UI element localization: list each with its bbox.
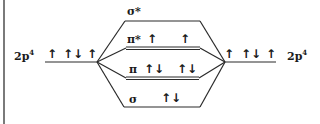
orbital-sigma-star: σ* — [125, 5, 200, 21]
orbital-label: π* — [127, 33, 141, 46]
orbital-label: π — [129, 63, 137, 76]
left-atom-level: 2p4 ↑ ↑↓ ↑ — [14, 47, 97, 63]
electron: ↑↓ — [144, 62, 164, 76]
right-electron-1: ↑ — [224, 47, 234, 61]
electron: ↑↓ — [177, 62, 197, 76]
left-electron-3: ↑ — [87, 47, 97, 61]
right-atom-level: ↑ ↑↓ ↑ 2p4 — [224, 47, 307, 63]
mo-diagram: 2p4 ↑ ↑↓ ↑ ↑ ↑↓ ↑ 2p4 σ* π* ↑ ↑ — [0, 0, 320, 124]
orbital-pi: π ↑↓ ↑↓ — [126, 62, 199, 80]
orbital-sigma: σ ↑↓ — [124, 91, 200, 107]
left-electron-1: ↑ — [47, 47, 57, 61]
right-electron-3: ↑ — [266, 47, 276, 61]
electron: ↑↓ — [161, 91, 181, 105]
electron: ↑ — [147, 32, 157, 46]
orbital-label: σ — [129, 93, 137, 106]
electron: ↑ — [180, 32, 190, 46]
orbital-label: σ* — [127, 5, 141, 18]
left-electron-2: ↑↓ — [63, 47, 83, 61]
left-atom-label: 2p4 — [14, 48, 34, 63]
orbital-pi-star: π* ↑ ↑ — [126, 32, 200, 50]
right-atom-label: 2p4 — [287, 48, 307, 63]
right-electron-2: ↑↓ — [241, 47, 261, 61]
